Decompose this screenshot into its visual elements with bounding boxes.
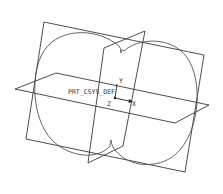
sketch-top-cusp[interactable]	[119, 46, 124, 53]
csys-x-axis	[115, 98, 129, 101]
csys-z-label: Z	[107, 100, 111, 108]
csys-name-label: PRT_CSYS_DEF	[68, 88, 115, 96]
sketch-bottom-cusp[interactable]	[110, 140, 113, 147]
right-datum-plane[interactable]	[88, 31, 145, 163]
top-datum-plane[interactable]	[15, 73, 209, 123]
sketch-right-lobe[interactable]	[113, 41, 197, 164]
csys-x-label: X	[132, 100, 136, 108]
csys-y-label: Y	[119, 77, 123, 85]
csys-origin-icon	[114, 97, 116, 99]
wireframe-svg: PRT_CSYS_DEF Y Z X	[0, 0, 223, 194]
model-viewport[interactable]: PRT_CSYS_DEF Y Z X	[0, 0, 223, 194]
csys-y-axis	[115, 84, 117, 98]
